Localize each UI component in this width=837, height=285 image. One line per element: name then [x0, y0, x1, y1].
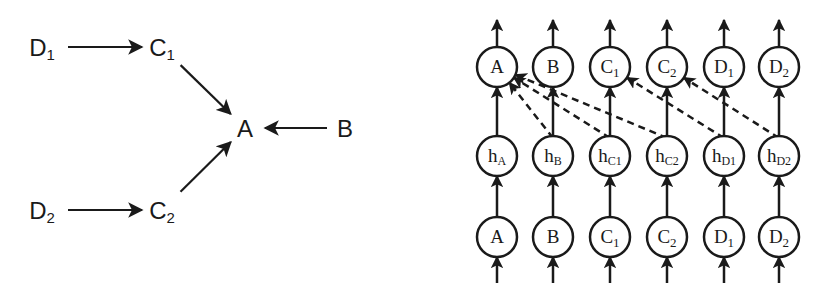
diagram-canvas: D1C1ABD2C2 ABC1C2D1D2hAhBhC1hC2hD1hD2ABC… — [0, 0, 837, 285]
input-node-label: B — [547, 226, 560, 247]
edge-c1-to-a — [181, 65, 231, 114]
node-c1: C1 — [149, 34, 175, 63]
dependency-graph: D1C1ABD2C2 — [29, 34, 353, 226]
node-b: B — [337, 115, 353, 142]
dashed-dependency-edge — [515, 75, 667, 138]
rnn-unrolled-graph: ABC1C2D1D2hAhBhC1hC2hD1hD2ABC1C2D1D2 — [477, 20, 799, 283]
output-node-label: B — [547, 56, 560, 77]
node-d1: D1 — [29, 34, 55, 63]
node-c2: C2 — [149, 197, 175, 226]
node-a: A — [237, 115, 253, 142]
dashed-dependency-edge — [627, 78, 724, 138]
node-d2: D2 — [29, 197, 55, 226]
edge-c2-to-a — [180, 142, 230, 192]
dashed-dependency-edge — [509, 83, 553, 138]
input-node-label: A — [490, 226, 504, 247]
output-node-label: A — [490, 56, 504, 77]
